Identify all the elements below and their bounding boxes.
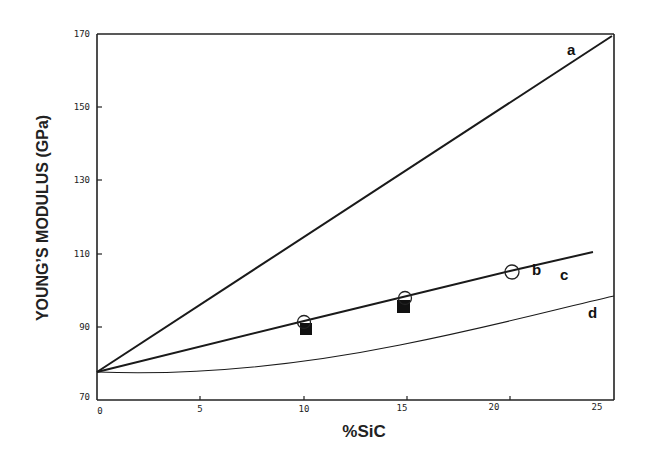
y-tick-labels: 170 150 130 110 90 70 [74,29,90,402]
ytick-110: 110 [74,249,90,259]
curve-label-b: b [532,261,541,278]
xtick-0: 0 [97,406,102,416]
ytick-150: 150 [74,102,90,112]
xtick-10: 10 [299,404,310,414]
ytick-90: 90 [79,322,90,332]
x-axis-label: %SiC [342,422,385,441]
ytick-70: 70 [79,392,90,402]
markers [298,265,520,335]
plot-frame [97,34,614,400]
curve-label-a: a [567,41,576,58]
ytick-130: 130 [74,175,90,185]
xtick-25: 25 [592,402,603,412]
xtick-15: 15 [397,403,408,413]
ytick-170: 170 [74,29,90,39]
curves [97,36,614,373]
xtick-5: 5 [197,404,202,414]
xtick-20: 20 [489,402,500,412]
square-marker [397,300,410,313]
chart: 170 150 130 110 90 70 0 5 10 15 20 25 %S… [0,0,646,452]
y-axis-label: YOUNG’S MODULUS (GPa) [34,115,51,321]
curve-label-d: d [588,304,597,321]
x-tick-labels: 0 5 10 15 20 25 [97,402,602,416]
curve-a [97,36,612,372]
curve-label-c: c [560,266,568,283]
